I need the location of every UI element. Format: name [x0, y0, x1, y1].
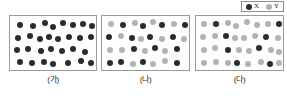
particle-x	[82, 49, 88, 55]
particle-x	[70, 22, 76, 28]
panel-na: (나)	[101, 15, 190, 85]
particle-y	[225, 60, 231, 66]
particle-y	[108, 21, 114, 27]
particle-x	[118, 59, 124, 65]
particle-y	[236, 47, 242, 53]
particle-y	[171, 21, 177, 27]
particle-y	[258, 59, 264, 65]
particle-y	[142, 48, 148, 54]
particle-x	[25, 46, 31, 52]
particle-x	[182, 22, 188, 28]
particle-y	[276, 60, 282, 66]
particle-y	[200, 34, 206, 40]
particle-x	[38, 48, 44, 54]
particle-y	[212, 45, 218, 51]
particle-x	[55, 36, 61, 42]
particle-x	[276, 21, 282, 27]
particle-x	[15, 35, 21, 41]
particle-y	[212, 33, 218, 39]
particle-y	[244, 19, 250, 25]
particle-y	[265, 21, 271, 27]
particle-x	[50, 24, 56, 30]
particle-x	[106, 34, 112, 40]
particle-x	[174, 60, 180, 66]
particle-x	[225, 47, 231, 53]
particle-y	[132, 20, 138, 26]
particle-x	[263, 34, 269, 40]
particle-y	[246, 48, 252, 54]
particle-y	[233, 23, 239, 29]
particle-model-figure: X Y (가) (나) (다)	[0, 0, 287, 99]
particle-x	[89, 23, 95, 29]
particle-x	[80, 21, 86, 27]
particle-y	[252, 33, 258, 39]
particle-x	[147, 34, 153, 40]
particle-x	[140, 59, 146, 65]
particle-x	[30, 23, 36, 29]
panel-ga: (가)	[9, 15, 97, 85]
panel-ga-box	[9, 15, 97, 71]
particle-y	[245, 61, 251, 67]
particle-y	[107, 47, 113, 53]
particle-y	[268, 47, 274, 53]
particle-x	[152, 45, 158, 51]
panel-da-caption: (다)	[195, 75, 284, 85]
particle-x	[120, 22, 126, 28]
panel-na-box	[101, 15, 190, 71]
particle-x	[129, 35, 135, 41]
particle-x	[107, 60, 113, 66]
particle-x	[59, 48, 65, 54]
particle-x	[37, 36, 43, 42]
particle-x	[29, 60, 35, 66]
particle-y	[150, 61, 156, 67]
particle-x	[42, 20, 48, 26]
particle-x	[131, 46, 137, 52]
particle-x	[223, 33, 229, 39]
particle-y	[213, 59, 219, 65]
particle-y	[254, 22, 260, 28]
particle-x	[88, 34, 94, 40]
particle-y	[232, 35, 238, 41]
panel-ga-caption: (가)	[9, 75, 97, 85]
particle-x	[88, 60, 94, 66]
particle-x	[170, 34, 176, 40]
particle-x	[41, 59, 47, 65]
legend: X Y	[241, 1, 284, 12]
legend-label-x: X	[254, 3, 259, 10]
particle-x	[17, 59, 23, 65]
particle-y	[130, 61, 136, 67]
particle-y	[118, 33, 124, 39]
particle-x	[65, 60, 71, 66]
particle-y	[225, 20, 231, 26]
legend-entry-x: X	[246, 3, 259, 10]
particle-x	[78, 58, 84, 64]
particle-y	[181, 36, 187, 42]
black-circle-icon	[246, 4, 252, 10]
particle-y	[201, 21, 207, 27]
panel-da-box	[195, 15, 284, 71]
panel-da: (다)	[195, 15, 284, 85]
particle-x	[17, 22, 23, 28]
legend-entry-y: Y	[266, 3, 279, 10]
particle-y	[276, 49, 282, 55]
panel-na-caption: (나)	[101, 75, 190, 85]
particle-y	[138, 36, 144, 42]
particle-x	[256, 45, 262, 51]
particle-x	[14, 47, 20, 53]
particle-x	[159, 22, 165, 28]
particle-y	[162, 48, 168, 54]
particle-y	[275, 35, 281, 41]
particle-x	[48, 46, 54, 52]
particle-y	[159, 36, 165, 42]
particle-y	[241, 35, 247, 41]
gray-circle-icon	[266, 4, 272, 10]
particle-y	[162, 58, 168, 64]
particle-x	[77, 35, 83, 41]
particle-x	[70, 46, 76, 52]
particle-x	[267, 61, 273, 67]
particle-y	[201, 47, 207, 53]
particle-y	[150, 19, 156, 25]
particle-y	[119, 47, 125, 53]
legend-label-y: Y	[274, 3, 279, 10]
particle-x	[50, 61, 56, 67]
